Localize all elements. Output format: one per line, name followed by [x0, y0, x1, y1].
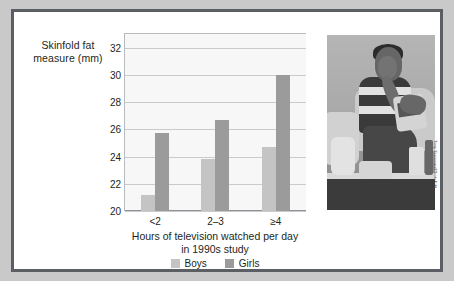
bar-group [185, 34, 245, 211]
bar-girls [155, 133, 169, 211]
bar-girls [215, 120, 229, 211]
legend-label: Girls [239, 258, 260, 269]
y-tick-label: 26 [110, 124, 121, 135]
legend-item-boys[interactable]: Boys [171, 258, 207, 269]
y-tick-label: 28 [110, 97, 121, 108]
plot-area: 20222426283032 <22–3≥4 [124, 33, 306, 211]
legend-label: Boys [185, 258, 207, 269]
photo-image [327, 35, 435, 210]
figure-inner: Skinfold fat measure (mm) 20222426283032… [14, 12, 440, 269]
x-tick-label: ≥4 [270, 216, 281, 227]
legend-item-girls[interactable]: Girls [225, 258, 260, 269]
y-axis-title: Skinfold fat measure (mm) [22, 39, 114, 65]
x-axis-title-line-2: in 1990s study [109, 243, 321, 256]
bar-boys [262, 147, 276, 211]
y-tick-label: 32 [110, 42, 121, 53]
gridline [125, 211, 306, 212]
y-axis-title-line-1: Skinfold fat [22, 39, 114, 52]
bar-groups [125, 34, 306, 211]
photo-snack-item [331, 137, 355, 176]
figure-frame: Skinfold fat measure (mm) 20222426283032… [11, 9, 443, 272]
bar-group [125, 34, 185, 211]
y-axis-title-line-2: measure (mm) [22, 52, 114, 65]
chart-legend: BoysGirls [109, 258, 321, 269]
x-axis-title-line-1: Hours of television watched per day [109, 230, 321, 243]
legend-swatch-icon [171, 259, 180, 268]
y-tick-label: 20 [110, 206, 121, 217]
legend-swatch-icon [225, 259, 234, 268]
bar-boys [141, 195, 155, 211]
photo-table [327, 179, 435, 211]
photo-credit: Tony Freeman/PhotoEdit [433, 140, 438, 188]
bar-girls [276, 75, 290, 211]
x-tick-label: 2–3 [207, 216, 224, 227]
x-axis-title: Hours of television watched per day in 1… [109, 230, 321, 256]
photo-cup [409, 147, 424, 175]
y-tick-label: 22 [110, 178, 121, 189]
bar-group [246, 34, 306, 211]
y-tick-label: 30 [110, 69, 121, 80]
photo-snack-item [359, 161, 391, 179]
x-tick-label: <2 [149, 216, 160, 227]
y-tick-label: 24 [110, 151, 121, 162]
bar-boys [201, 159, 215, 211]
photo-bottle [425, 140, 433, 175]
